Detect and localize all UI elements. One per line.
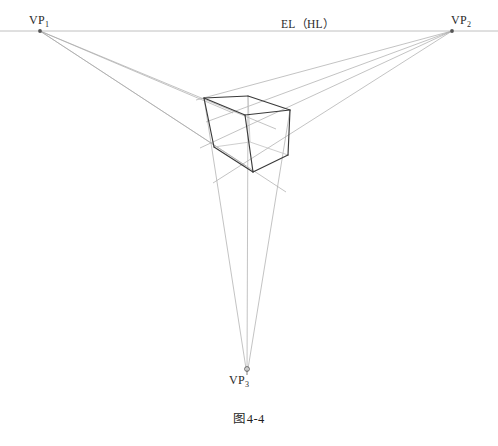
label-vp2-base: VP: [451, 13, 467, 27]
hidden-edge-bottom-back-to-bottom-right: [250, 142, 288, 155]
perspective-diagram-canvas: [0, 0, 498, 446]
cube-visible-edges: [204, 96, 290, 172]
label-vp2-subscript: 2: [467, 20, 471, 29]
label-vp2: VP2: [451, 13, 471, 29]
vanishing-point-markers: [38, 29, 454, 371]
ray-vp1-to-bottom-front: [40, 31, 286, 192]
label-vp3-subscript: 3: [245, 380, 249, 389]
edge-bottom-left-to-bottom-front: [214, 147, 253, 172]
label-vp3-base: VP: [229, 373, 245, 387]
edge-top-back-to-top-right: [248, 96, 290, 110]
edge-top-front-to-top-left: [204, 98, 245, 115]
label-eye-level-horizon: EL（HL）: [281, 15, 334, 31]
label-vp1-subscript: 1: [45, 20, 49, 29]
construction-rays-vp3: [204, 96, 290, 375]
label-vp3: VP3: [229, 373, 249, 389]
hidden-edge-bottom-back-to-bottom-left: [214, 142, 250, 147]
ray-vp1-to-top-front: [40, 31, 276, 129]
label-vp1: VP1: [29, 13, 49, 29]
vp2-dot: [450, 29, 454, 33]
label-vp1-base: VP: [29, 13, 45, 27]
perspective-figure: VP1 VP2 VP3 EL（HL） 图4-4: [0, 0, 498, 446]
ray-vp3-right-vertical: [247, 110, 290, 375]
figure-caption: 图4-4: [0, 408, 498, 427]
ray-vp2-to-top-back: [196, 31, 452, 100]
construction-rays-vp1: [40, 31, 286, 192]
vp1-dot: [38, 29, 42, 33]
edge-bottom-front-to-bottom-right: [253, 155, 288, 172]
cube-hidden-edges: [214, 96, 288, 155]
ray-vp2-to-top-front: [206, 31, 452, 122]
ray-vp2-to-bottom-back: [200, 31, 452, 148]
ray-vp3-left-vertical: [204, 98, 247, 375]
edge-top-right-to-top-front: [245, 110, 290, 115]
